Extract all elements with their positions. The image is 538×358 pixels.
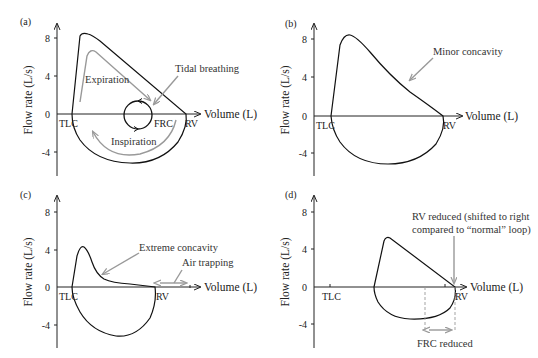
rv-label: RV xyxy=(156,291,170,302)
extreme-concavity-arrow xyxy=(103,253,139,274)
tick-0: 0 xyxy=(45,282,50,293)
air-trapping-label: Air trapping xyxy=(182,257,234,268)
panel-c: (c) 8 4 0 -4 Flow rate (L/s) Volume (L) … xyxy=(20,189,257,348)
panel-a-label: (a) xyxy=(20,16,31,28)
panel-b: (b) 8 4 0 -4 Flow rate (L/s) Volume (L) … xyxy=(279,18,518,176)
tlc-label: TLC xyxy=(59,118,78,129)
panel-c-y-label: Flow rate (L/s) xyxy=(22,237,35,306)
panel-c-x-label: Volume (L) xyxy=(204,281,257,294)
tick-8: 8 xyxy=(45,207,50,218)
rv-label: RV xyxy=(185,118,199,129)
panel-d-label: (d) xyxy=(285,189,297,201)
expiration-label: Expiration xyxy=(85,74,130,85)
rv-reduced-note-line1: RV reduced (shifted to right xyxy=(412,211,529,223)
panel-d-x-label: Volume (L) xyxy=(470,281,523,294)
tick-4: 4 xyxy=(45,71,50,82)
tick-4: 4 xyxy=(302,244,307,255)
minor-concavity-label: Minor concavity xyxy=(433,46,503,57)
tlc-label: TLC xyxy=(316,120,335,131)
panel-b-label: (b) xyxy=(285,18,297,30)
tick-4: 4 xyxy=(302,72,307,83)
rv-label: RV xyxy=(443,120,457,131)
tick-0: 0 xyxy=(302,111,307,122)
tlc-label: TLC xyxy=(322,291,341,302)
tick-neg4: -4 xyxy=(42,147,50,158)
figure-canvas: (a) 8 4 0 -4 Flow rate (L/s) Volume (L) … xyxy=(0,0,538,358)
rv-label: RV xyxy=(455,291,469,302)
panel-c-loop xyxy=(72,247,155,336)
panel-a: (a) 8 4 0 -4 Flow rate (L/s) Volume (L) … xyxy=(20,16,257,176)
tick-0: 0 xyxy=(45,109,50,120)
extreme-concavity-label: Extreme concavity xyxy=(139,242,219,253)
panel-a-x-label: Volume (L) xyxy=(204,108,257,121)
panel-b-x-label: Volume (L) xyxy=(465,110,518,123)
panel-b-y-ticks: 8 4 0 -4 xyxy=(299,34,314,159)
panel-b-loop xyxy=(331,35,444,164)
frc-label: FRC xyxy=(154,118,173,129)
panel-d-loop xyxy=(374,237,455,319)
panel-d-y-label: Flow rate (L/s) xyxy=(279,237,292,306)
tick-8: 8 xyxy=(302,207,307,218)
panel-a-y-label: Flow rate (L/s) xyxy=(22,65,35,134)
tick-0: 0 xyxy=(302,282,307,293)
air-trapping-leader xyxy=(174,270,182,283)
minor-concavity-arrow xyxy=(410,58,433,80)
panel-a-y-ticks: 8 4 0 -4 xyxy=(42,33,57,158)
tick-neg4: -4 xyxy=(42,320,50,331)
tick-neg4: -4 xyxy=(299,148,307,159)
inspiration-label: Inspiration xyxy=(111,136,157,147)
tick-8: 8 xyxy=(45,33,50,44)
tick-4: 4 xyxy=(45,245,50,256)
tidal-breathing-loop xyxy=(124,101,152,129)
tick-neg4: -4 xyxy=(299,319,307,330)
tidal-breathing-label: Tidal breathing xyxy=(175,63,240,74)
panel-c-y-ticks: 8 4 0 -4 xyxy=(42,207,57,331)
tlc-label: TLC xyxy=(59,291,78,302)
frc-reduced-label: FRC reduced xyxy=(417,338,473,349)
tick-8: 8 xyxy=(302,34,307,45)
panel-d: (d) 8 4 0 -4 Flow rate (L/s) Volume (L) … xyxy=(279,189,531,349)
panel-b-y-label: Flow rate (L/s) xyxy=(279,65,292,134)
panel-c-label: (c) xyxy=(20,189,31,201)
panel-d-y-ticks: 8 4 0 -4 xyxy=(299,207,314,330)
rv-reduced-note-line2: compared to “normal” loop) xyxy=(412,224,531,236)
